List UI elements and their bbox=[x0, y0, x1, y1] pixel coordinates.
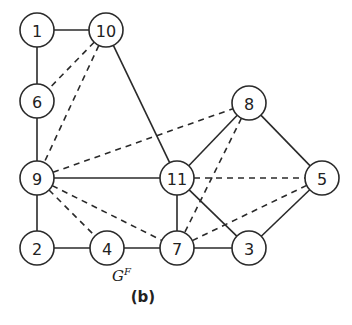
edge-9-4-dashed bbox=[49, 190, 95, 236]
node-label: 11 bbox=[167, 170, 187, 189]
node-8: 8 bbox=[232, 86, 266, 120]
figure-caption: (b) bbox=[131, 288, 155, 306]
edge-10-11-solid bbox=[113, 45, 169, 162]
graph-name: GF bbox=[112, 266, 132, 285]
node-3: 3 bbox=[232, 231, 266, 265]
edge-9-8-dashed bbox=[53, 109, 233, 173]
node-7: 7 bbox=[160, 231, 194, 265]
node-9: 9 bbox=[20, 161, 54, 195]
node-label: 4 bbox=[102, 240, 112, 259]
graph-diagram: 1106924711853 GF (b) bbox=[0, 0, 352, 325]
node-label: 9 bbox=[32, 170, 42, 189]
node-label: 1 bbox=[32, 22, 42, 41]
node-label: 5 bbox=[317, 170, 327, 189]
node-2: 2 bbox=[20, 231, 54, 265]
edge-11-3-solid bbox=[189, 190, 237, 236]
edge-8-5-solid bbox=[261, 115, 310, 166]
edge-5-3-solid bbox=[261, 190, 309, 236]
nodes-layer: 1106924711853 bbox=[20, 13, 339, 265]
node-label: 6 bbox=[32, 93, 42, 112]
node-label: 10 bbox=[96, 22, 116, 41]
node-label: 8 bbox=[244, 95, 254, 114]
node-label: 7 bbox=[172, 240, 182, 259]
graph-name-superscript: F bbox=[123, 266, 132, 277]
node-10: 10 bbox=[89, 13, 123, 47]
node-label: 3 bbox=[244, 240, 254, 259]
node-4: 4 bbox=[90, 231, 124, 265]
node-1: 1 bbox=[20, 13, 54, 47]
edge-10-6-dashed bbox=[49, 42, 94, 89]
node-label: 2 bbox=[32, 240, 42, 259]
node-6: 6 bbox=[20, 84, 54, 118]
node-5: 5 bbox=[305, 161, 339, 195]
node-11: 11 bbox=[160, 161, 194, 195]
edges-layer bbox=[37, 30, 310, 248]
